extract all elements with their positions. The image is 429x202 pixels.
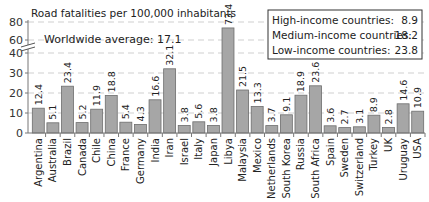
bar-japan <box>207 125 219 133</box>
category-label: Japan <box>208 138 219 167</box>
y-tick-label: 40 <box>9 47 23 60</box>
value-label: 2.7 <box>339 109 350 124</box>
value-label: 3.8 <box>208 107 219 122</box>
y-tick-label: 20 <box>9 87 23 100</box>
category-label: Malaysia <box>237 138 248 182</box>
bar-australia <box>47 123 59 133</box>
category-label: China <box>106 138 117 167</box>
value-label: 23.6 <box>310 62 321 83</box>
category-label: UK <box>383 138 394 152</box>
legend-label-high-income: High-income countries: <box>272 14 394 26</box>
bar-chart: 0102030406080 12.45.123.45.211.918.85.44… <box>0 0 429 202</box>
category-label: Germany <box>135 138 146 184</box>
chart-title: Road fatalities per 100,000 inhabitants <box>31 7 236 19</box>
value-label: 9.1 <box>281 97 292 112</box>
bar-russia <box>295 95 307 133</box>
bar-argentina <box>32 108 44 133</box>
bar-germany <box>134 124 146 133</box>
value-label: 3.6 <box>325 108 336 123</box>
bar-canada <box>76 123 88 133</box>
category-label: Spain <box>325 138 336 166</box>
category-label: India <box>150 138 161 163</box>
bar-uruguay <box>397 104 409 133</box>
category-label: Brazil <box>62 138 73 166</box>
bar-china <box>105 95 117 133</box>
legend-value-high-income: 8.9 <box>401 14 418 26</box>
category-label: Sweden <box>339 138 350 178</box>
value-label: 11.9 <box>91 85 102 106</box>
y-tick-label: 30 <box>9 67 23 80</box>
bar-italy <box>193 122 205 133</box>
value-label: 12.4 <box>33 84 44 105</box>
value-label: 3.7 <box>266 107 277 122</box>
bar-usa <box>412 111 424 133</box>
category-label: Netherlands <box>266 138 277 199</box>
category-label: Italy <box>193 138 204 160</box>
y-tick-label: 80 <box>9 16 23 29</box>
value-label: 18.9 <box>295 71 306 92</box>
value-label: 18.8 <box>106 71 117 92</box>
bar-israel <box>178 125 190 133</box>
value-label: 3.1 <box>354 109 365 124</box>
bar-france <box>120 122 132 133</box>
bar-uk <box>383 127 395 133</box>
value-label: 13.3 <box>252 82 263 103</box>
value-label: 23.4 <box>62 62 73 83</box>
value-label: 4.3 <box>135 106 146 121</box>
value-label: 2.8 <box>383 109 394 124</box>
value-label: 5.2 <box>77 104 88 119</box>
y-tick-label: 0 <box>16 127 23 140</box>
value-label: 16.6 <box>150 76 161 97</box>
value-label: 5.4 <box>120 104 131 119</box>
category-label: France <box>120 138 131 171</box>
category-label: Australia <box>47 138 58 182</box>
legend-value-medium-income: 18.2 <box>395 29 418 41</box>
category-label: USA <box>412 138 423 159</box>
bar-netherlands <box>266 126 278 133</box>
bar-turkey <box>368 115 380 133</box>
bar-south-africa <box>310 86 322 133</box>
category-label: Chile <box>91 138 102 163</box>
y-tick-label: 60 <box>9 34 23 47</box>
legend-value-low-income: 23.8 <box>395 44 418 56</box>
bar-chile <box>91 109 103 133</box>
y-tick-label: 10 <box>9 107 23 120</box>
category-label: South Africa <box>310 138 321 199</box>
category-label: Libya <box>223 138 234 165</box>
bar-south-korea <box>280 115 292 133</box>
bar-spain <box>324 126 336 133</box>
legend: High-income countries: 8.9 Medium-income… <box>268 10 422 59</box>
bar-libya <box>222 28 234 133</box>
legend-label-low-income: Low-income countries: <box>272 44 391 56</box>
value-label: 32.1 <box>164 45 175 66</box>
category-label: Switzerland <box>354 138 365 196</box>
value-label: 10.9 <box>412 87 423 108</box>
bar-iran <box>164 69 176 133</box>
bar-mexico <box>251 106 263 133</box>
bar-malaysia <box>237 90 249 133</box>
category-label: Russia <box>295 138 306 170</box>
category-label: Uruguay <box>398 138 409 181</box>
category-label: Canada <box>77 138 88 176</box>
worldwide-average-annotation: Worldwide average: 17.1 <box>44 33 182 46</box>
category-label: Argentina <box>33 138 44 187</box>
category-label: Turkey <box>368 138 379 172</box>
bar-switzerland <box>353 127 365 133</box>
bar-sweden <box>339 128 351 133</box>
value-label: 8.9 <box>368 97 379 112</box>
bar-brazil <box>61 86 73 133</box>
category-label: Israel <box>179 138 190 165</box>
value-label: 21.5 <box>237 66 248 87</box>
value-label: 5.6 <box>193 104 204 119</box>
legend-label-medium-income: Medium-income countries: <box>272 29 412 41</box>
value-label: 3.8 <box>179 107 190 122</box>
value-label: 5.1 <box>47 105 58 120</box>
category-label: Iran <box>164 138 175 158</box>
bar-india <box>149 100 161 133</box>
y-axis: 0102030406080 <box>9 16 35 140</box>
category-label: Mexico <box>252 138 263 173</box>
value-label: 14.6 <box>398 80 409 101</box>
category-label: South Korea <box>281 138 292 199</box>
x-axis: ArgentinaAustraliaBrazilCanadaChileChina… <box>28 133 425 199</box>
